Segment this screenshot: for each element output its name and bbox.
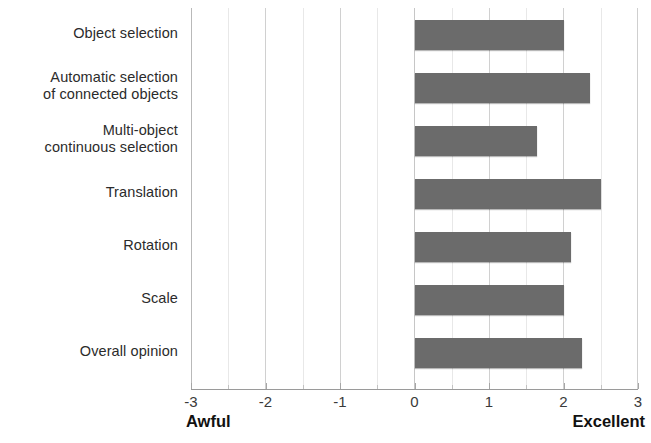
value-tick-label: 1: [485, 393, 493, 410]
value-tick-label: 3: [634, 393, 642, 410]
bar: [415, 338, 583, 368]
value-tick-minor: [377, 385, 378, 389]
value-tick: [564, 383, 565, 389]
scale-endpoint-low-label: Awful: [186, 412, 231, 431]
category-label-translation: Translation: [0, 184, 178, 201]
bars-layer: [191, 8, 638, 389]
category-label-scale: Scale: [0, 290, 178, 307]
category-label-line: of connected objects: [0, 86, 178, 103]
scale-endpoint-captions: Awful Excellent: [191, 412, 638, 438]
value-tick-label: -1: [333, 393, 346, 410]
category-label-object-selection: Object selection: [0, 25, 178, 42]
bar: [415, 73, 590, 103]
value-tick: [415, 383, 416, 389]
category-label-overall-opinion: Overall opinion: [0, 343, 178, 360]
category-label-automatic-selection: Automatic selection of connected objects: [0, 69, 178, 103]
category-label-multi-object-continuous: Multi-object continuous selection: [0, 122, 178, 156]
scale-endpoint-high-label: Excellent: [573, 412, 645, 431]
value-axis-tick-labels: -3-2-10123: [191, 393, 638, 413]
category-label-line: continuous selection: [0, 139, 178, 156]
value-tick: [266, 383, 267, 389]
value-tick-minor: [526, 385, 527, 389]
category-label-line: Object selection: [0, 25, 178, 42]
category-label-line: Automatic selection: [0, 69, 178, 86]
category-label-line: Translation: [0, 184, 178, 201]
value-tick: [489, 383, 490, 389]
bar: [415, 126, 538, 156]
category-label-line: Overall opinion: [0, 343, 178, 360]
value-tick-minor: [452, 385, 453, 389]
value-tick: [191, 383, 192, 389]
category-label-line: Scale: [0, 290, 178, 307]
category-label-rotation: Rotation: [0, 237, 178, 254]
plot-area: [191, 8, 638, 389]
value-tick-label: -2: [259, 393, 272, 410]
horizontal-bar-chart: Object selection Automatic selection of …: [0, 0, 651, 443]
value-tick-label: 2: [559, 393, 567, 410]
bar: [415, 285, 564, 315]
category-label-line: Rotation: [0, 237, 178, 254]
value-tick-label: -3: [184, 393, 197, 410]
bar: [415, 20, 564, 50]
value-tick: [638, 383, 639, 389]
bar: [415, 232, 571, 262]
value-tick-label: 0: [410, 393, 418, 410]
bar: [415, 179, 601, 209]
value-tick-minor: [601, 385, 602, 389]
value-axis-ticks: [191, 383, 638, 390]
value-tick: [340, 383, 341, 389]
category-axis: Object selection Automatic selection of …: [0, 0, 186, 390]
category-label-line: Multi-object: [0, 122, 178, 139]
value-tick-minor: [303, 385, 304, 389]
value-tick-minor: [228, 385, 229, 389]
